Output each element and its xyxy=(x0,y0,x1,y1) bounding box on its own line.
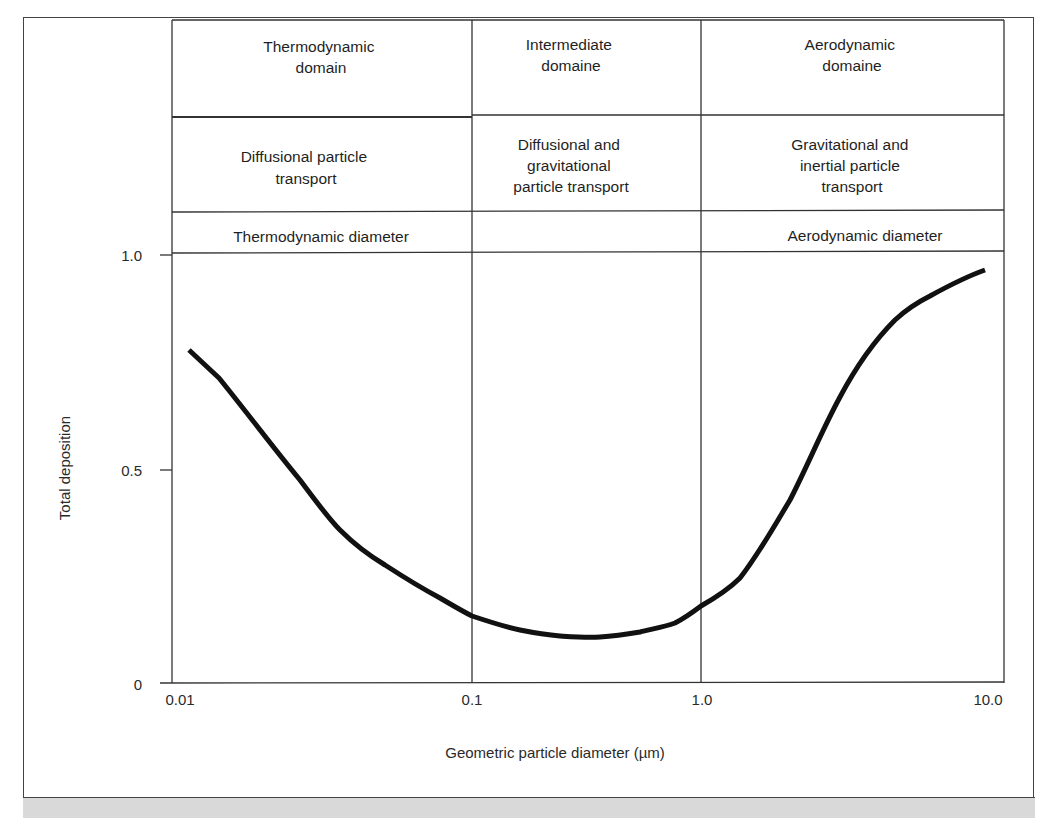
x-axis-label: Geometric particle diameter (µm) xyxy=(445,744,665,761)
thermodynamic-domain-label: Thermodynamic domain xyxy=(263,38,378,76)
y-tick-0-5: 0.5 xyxy=(121,462,142,479)
x-tick-1-0: 1.0 xyxy=(692,691,713,708)
domain-table-grid xyxy=(160,20,1004,683)
aerodynamic-domain-label: Aerodynamic domaine xyxy=(805,36,900,74)
diffusional-transport-label: Diffusional particle transport xyxy=(241,148,372,187)
gravitational-inertial-transport-label: Gravitational and inertial particle tran… xyxy=(791,136,913,195)
y-tick-1: 1.0 xyxy=(121,247,142,264)
y-axis-label: Total deposition xyxy=(56,416,73,520)
diffusional-gravitational-transport-label: Diffusional and gravitational particle t… xyxy=(513,136,629,195)
y-axis-ticks xyxy=(160,255,172,470)
y-tick-0: 0 xyxy=(134,676,142,693)
intermediate-domain-label: Intermediate domaine xyxy=(526,36,616,74)
x-tick-10-0: 10.0 xyxy=(973,691,1002,708)
x-tick-0-01: 0.01 xyxy=(165,691,194,708)
thermodynamic-diameter-label: Thermodynamic diameter xyxy=(233,228,409,245)
x-tick-0-1: 0.1 xyxy=(462,691,483,708)
aerodynamic-diameter-label: Aerodynamic diameter xyxy=(787,227,942,244)
deposition-curve xyxy=(189,270,985,637)
